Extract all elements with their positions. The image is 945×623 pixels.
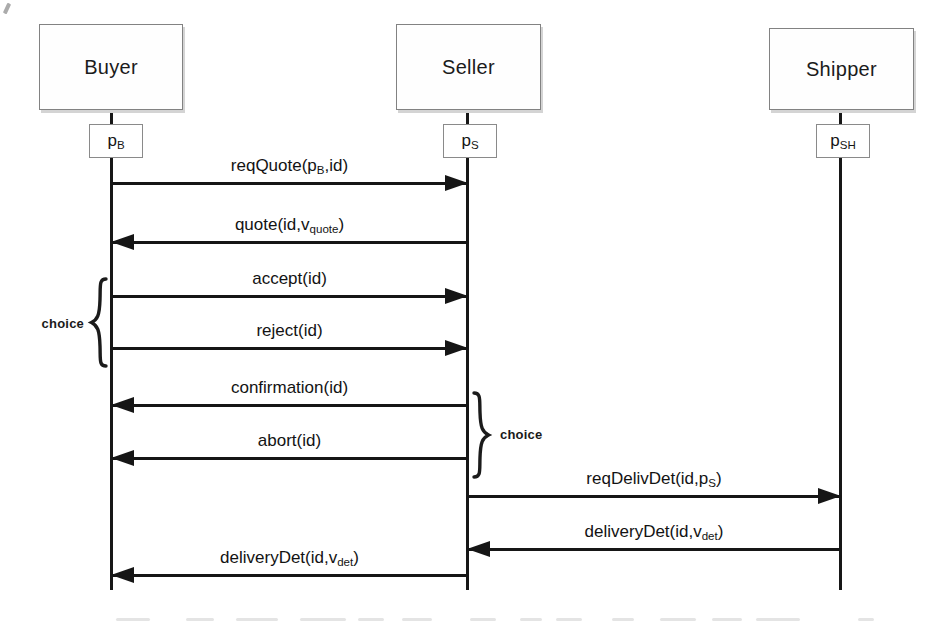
participant-label-seller: Seller [442,56,495,79]
process-base: pS [461,131,478,151]
label-text: confirmation(id) [231,378,348,397]
label-text: ) [353,548,359,567]
arrowhead-left-icon [467,541,490,557]
arrowhead-left-icon [111,567,134,583]
message-label: accept(id) [113,269,466,289]
process-sub-text: S [471,139,479,151]
message-deliverydet-to-buyer: deliveryDet(id,vdet) [113,574,466,577]
arrowhead-left-icon [111,234,134,250]
arrow-line [469,548,839,551]
lifeline-shipper [839,110,842,590]
caption-smudge [520,618,542,621]
message-reqdelivdet: reqDelivDet(id,pS) [469,495,839,498]
label-text: deliveryDet(id,v [585,522,702,541]
arrow-line [113,574,466,577]
message-reqquote: reqQuote(pB,id) [113,182,466,185]
label-sub: S [708,477,716,489]
arrow-line [113,347,466,350]
arrow-line [113,182,466,185]
message-label: reqQuote(pB,id) [113,156,466,176]
process-base-text: p [461,131,470,150]
label-text: reqQuote(p [231,156,317,175]
label-text: reject(id) [256,321,322,340]
caption-smudge [470,618,496,621]
label-sub: B [317,164,325,176]
caption-smudge [236,618,278,621]
arrowhead-left-icon [111,450,134,466]
label-sub: quote [310,223,339,235]
arrowhead-right-icon [445,175,468,191]
process-base-text: p [107,131,116,150]
message-label: deliveryDet(id,vdet) [469,522,839,542]
participant-label-shipper: Shipper [806,58,877,81]
process-base: pB [107,131,124,151]
process-sub-text: B [117,139,125,151]
process-label-seller: pS [443,124,497,158]
participant-box-buyer: Buyer [39,24,183,110]
label-sub: det [337,556,353,568]
process-sub-text: SH [840,139,856,151]
process-base: pSH [830,131,856,151]
participant-label-buyer: Buyer [84,56,138,79]
process-label-buyer: pB [89,124,143,158]
sequence-diagram: Buyer Seller Shipper pB pS pSH reqQuote(… [0,0,945,623]
arrowhead-right-icon [445,340,468,356]
choice-brace-right-icon [471,390,494,480]
label-text: ) [716,469,722,488]
caption-smudge [660,618,696,621]
caption-smudge [556,618,582,621]
caption-smudge [612,618,634,621]
label-text: abort(id) [258,431,321,450]
message-reject: reject(id) [113,347,466,350]
process-base-text: p [830,131,839,150]
label-text: quote(id,v [235,215,310,234]
participant-box-seller: Seller [396,24,541,110]
caption-smudge [300,618,346,621]
arrow-line [113,295,466,298]
choice-label-right: choice [500,427,542,442]
label-text: ,id) [325,156,349,175]
caption-smudge [116,618,150,621]
caption-smudge [402,618,432,621]
message-quote: quote(id,vquote) [113,241,466,244]
message-label: deliveryDet(id,vdet) [113,548,466,568]
message-label: reject(id) [113,321,466,341]
participant-box-shipper: Shipper [769,28,914,110]
message-confirmation: confirmation(id) [113,404,466,407]
choice-brace-left-icon [86,276,109,369]
arrow-line [113,404,466,407]
caption-smudge [756,618,800,621]
arrow-line [113,457,466,460]
arrow-line [469,495,839,498]
message-abort: abort(id) [113,457,466,460]
message-accept: accept(id) [113,295,466,298]
label-text: ) [718,522,724,541]
label-text: reqDelivDet(id,p [586,469,708,488]
caption-smudge [712,618,742,621]
message-deliverydet-to-seller: deliveryDet(id,vdet) [469,548,839,551]
caption-smudge [358,618,384,621]
arrowhead-left-icon [111,397,134,413]
message-label: reqDelivDet(id,pS) [469,469,839,489]
process-label-shipper: pSH [816,124,870,158]
arrow-line [113,241,466,244]
message-label: abort(id) [113,431,466,451]
arrowhead-right-icon [818,488,841,504]
caption-smudge [858,618,874,621]
message-label: quote(id,vquote) [113,215,466,235]
label-text: deliveryDet(id,v [220,548,337,567]
choice-label-left: choice [28,316,84,331]
scan-corner-mark [3,3,11,15]
label-sub: det [702,530,718,542]
label-text: ) [338,215,344,234]
message-label: confirmation(id) [113,378,466,398]
arrowhead-right-icon [445,288,468,304]
caption-smudge [186,618,214,621]
label-text: accept(id) [252,269,327,288]
